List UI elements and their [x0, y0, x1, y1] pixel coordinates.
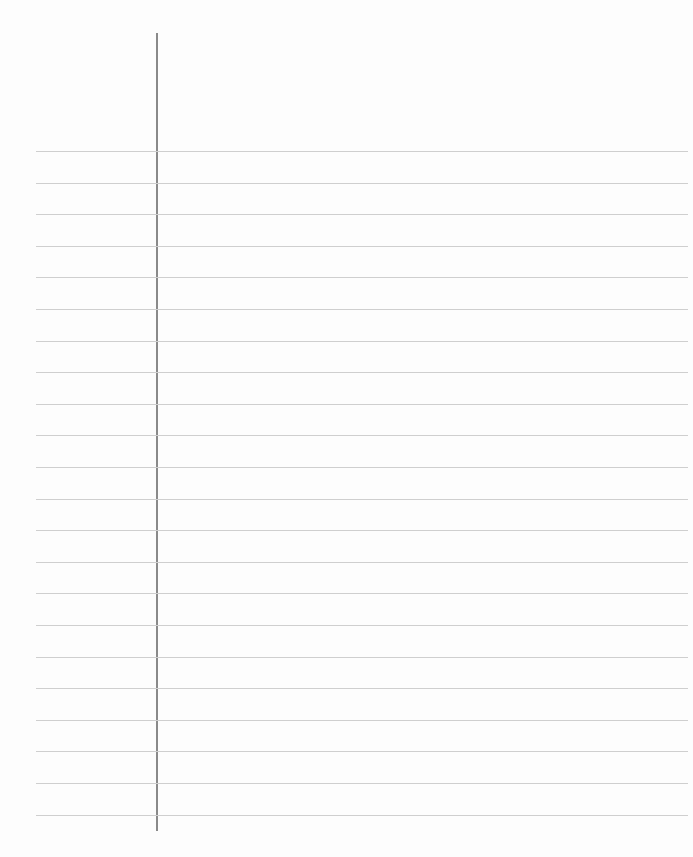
ruled-line	[36, 783, 688, 784]
ruled-line	[36, 341, 688, 342]
ruled-line	[36, 151, 688, 152]
ruled-line	[36, 277, 688, 278]
ruled-line	[36, 467, 688, 468]
ruled-line	[36, 530, 688, 531]
ruled-line	[36, 625, 688, 626]
ruled-line	[36, 214, 688, 215]
ruled-line	[36, 499, 688, 500]
ruled-line	[36, 751, 688, 752]
ruled-line	[36, 246, 688, 247]
ruled-line	[36, 404, 688, 405]
ruled-line	[36, 435, 688, 436]
ruled-line	[36, 183, 688, 184]
ruled-line	[36, 562, 688, 563]
ruled-line	[36, 720, 688, 721]
ruled-line	[36, 657, 688, 658]
ruled-line	[36, 815, 688, 816]
ruled-line	[36, 372, 688, 373]
lined-paper	[0, 0, 693, 857]
margin-line	[156, 33, 158, 831]
ruled-line	[36, 309, 688, 310]
ruled-line	[36, 593, 688, 594]
ruled-line	[36, 688, 688, 689]
